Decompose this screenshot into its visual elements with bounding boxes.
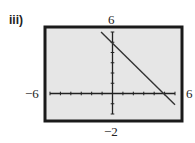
screen-frame: [45, 27, 182, 121]
graph-screen: [0, 0, 195, 143]
